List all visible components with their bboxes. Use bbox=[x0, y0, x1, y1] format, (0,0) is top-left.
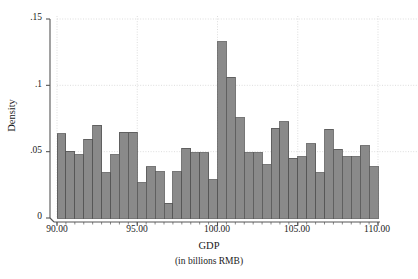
histogram-chart: .15 .1 .05 0 90.00 95.00 100.00 105.00 1… bbox=[0, 0, 418, 279]
plot-canvas bbox=[0, 0, 418, 279]
x-tick-label-90: 90.00 bbox=[27, 224, 87, 234]
y-axis-title: Density bbox=[6, 81, 17, 151]
x-tick-label-100: 100.00 bbox=[187, 224, 247, 234]
x-tick-label-110: 110.00 bbox=[347, 224, 407, 234]
x-axis-subtitle: (in billions RMB) bbox=[0, 256, 418, 266]
y-tick-label-000: 0 bbox=[8, 211, 42, 221]
x-tick-label-95: 95.00 bbox=[107, 224, 167, 234]
y-tick-label-015: .15 bbox=[8, 12, 42, 22]
bar-series bbox=[57, 42, 378, 218]
x-tick-label-105: 105.00 bbox=[267, 224, 327, 234]
x-axis-title: GDP bbox=[0, 240, 418, 251]
